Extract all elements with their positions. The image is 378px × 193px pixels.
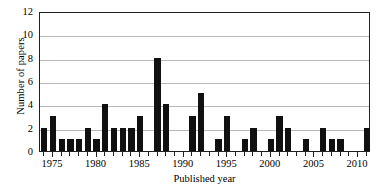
- y-tick-label: 12: [11, 7, 33, 17]
- x-tick-mark: [200, 152, 201, 156]
- x-tick-mark: [235, 152, 236, 156]
- bar: [154, 58, 160, 151]
- x-tick-mark: [209, 152, 210, 156]
- bar: [50, 116, 56, 151]
- y-axis-tick-labels: 024681012: [14, 12, 36, 152]
- x-tick-mark: [113, 152, 114, 156]
- bar: [320, 128, 326, 151]
- bar: [111, 128, 117, 151]
- x-tick-mark: [340, 152, 341, 156]
- x-tick-mark: [261, 152, 262, 156]
- x-axis-title: Published year: [39, 172, 370, 185]
- x-tick-mark: [348, 152, 349, 156]
- x-tick-mark: [366, 152, 367, 156]
- bar: [102, 104, 108, 151]
- x-tick-label: 1990: [163, 157, 203, 170]
- bar: [329, 139, 335, 151]
- x-tick-mark: [174, 152, 175, 156]
- bar: [364, 128, 370, 151]
- bar: [59, 139, 65, 151]
- bar-series: [40, 13, 369, 151]
- bar: [215, 139, 221, 151]
- x-tick-mark: [296, 152, 297, 156]
- x-tick-label: 2005: [293, 157, 333, 170]
- bar: [67, 139, 73, 151]
- x-tick-mark: [61, 152, 62, 156]
- bar: [285, 128, 291, 151]
- x-tick-mark: [104, 152, 105, 156]
- bar: [276, 116, 282, 151]
- bar: [224, 116, 230, 151]
- x-tick-mark: [87, 152, 88, 156]
- x-tick-mark: [157, 152, 158, 156]
- x-tick-mark: [252, 152, 253, 156]
- bar: [137, 116, 143, 151]
- y-tick-label: 2: [11, 124, 33, 134]
- publications-per-year-chart: Number of papers 024681012 1975198019851…: [0, 0, 378, 193]
- bar: [250, 128, 256, 151]
- x-tick-mark: [287, 152, 288, 156]
- x-tick-mark: [69, 152, 70, 156]
- bar: [242, 139, 248, 151]
- y-tick-label: 0: [11, 147, 33, 157]
- x-tick-mark: [148, 152, 149, 156]
- x-tick-mark: [322, 152, 323, 156]
- x-tick-mark: [218, 152, 219, 156]
- x-tick-mark: [191, 152, 192, 156]
- x-tick-label: 1995: [206, 157, 246, 170]
- bar: [198, 93, 204, 151]
- bar: [268, 139, 274, 151]
- x-tick-label: 1975: [32, 157, 72, 170]
- x-tick-label: 1985: [119, 157, 159, 170]
- bar: [303, 139, 309, 151]
- bar: [76, 139, 82, 151]
- y-tick-label: 8: [11, 54, 33, 64]
- x-tick-mark: [43, 152, 44, 156]
- x-tick-mark: [244, 152, 245, 156]
- bar: [120, 128, 126, 151]
- x-tick-mark: [165, 152, 166, 156]
- x-tick-label: 2000: [250, 157, 290, 170]
- x-tick-mark: [279, 152, 280, 156]
- bar: [163, 104, 169, 151]
- x-tick-mark: [331, 152, 332, 156]
- bar: [128, 128, 134, 151]
- x-tick-label: 1980: [76, 157, 116, 170]
- bar: [85, 128, 91, 151]
- y-tick-label: 10: [11, 30, 33, 40]
- x-tick-label: 2010: [337, 157, 377, 170]
- bar: [189, 116, 195, 151]
- x-tick-mark: [130, 152, 131, 156]
- y-tick-label: 4: [11, 100, 33, 110]
- y-tick-label: 6: [11, 77, 33, 87]
- x-tick-mark: [305, 152, 306, 156]
- bar: [93, 139, 99, 151]
- x-axis-tick-labels: 19751980198519901995200020052010: [39, 157, 370, 171]
- x-tick-mark: [78, 152, 79, 156]
- bar: [41, 128, 47, 151]
- bar: [337, 139, 343, 151]
- plot-area: [39, 12, 370, 152]
- x-tick-mark: [122, 152, 123, 156]
